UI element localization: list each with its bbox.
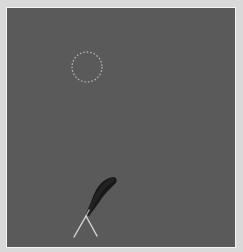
- game-scene: [0, 0, 243, 252]
- launcher-icon[interactable]: [74, 216, 97, 237]
- projectile-trail-icon: [86, 177, 117, 216]
- target-circle-icon[interactable]: [72, 52, 102, 82]
